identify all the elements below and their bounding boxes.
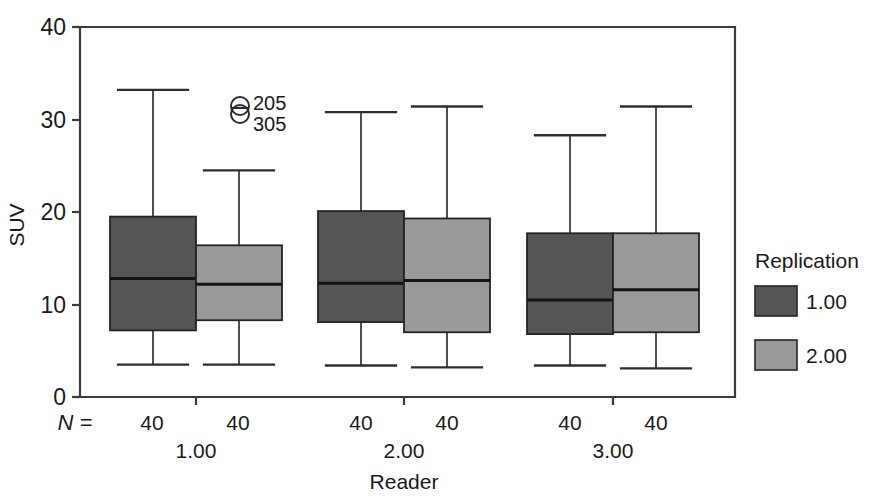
box-body[interactable] [318,211,404,322]
box-body[interactable] [613,233,699,332]
box-group-reader-2.00-rep-2.00 [404,107,490,368]
box-group-reader-3.00-rep-2.00 [613,107,699,369]
boxplot-figure: 40 30 20 10 0 SUV 205 305 [0,0,873,500]
legend: Replication 1.00 2.00 [755,249,859,370]
x-axis-title: Reader [370,470,439,493]
boxplot-canvas: 40 30 20 10 0 SUV 205 305 [0,0,873,500]
outlier-label-205: 205 [253,92,286,114]
y-tick-label-0: 0 [53,384,66,410]
outlier-annotation-group: 205 305 [231,92,286,135]
legend-title: Replication [755,249,859,272]
group-label-2: 2.00 [384,439,425,462]
group-label-1: 1.00 [176,439,217,462]
box-group-reader-2.00-rep-1.00 [318,112,404,365]
box-body[interactable] [404,218,490,332]
y-tick-label-20: 20 [40,199,66,225]
legend-label-replication-1: 1.00 [806,290,847,313]
legend-swatch-replication-1[interactable] [755,286,797,316]
count-label-g3-r2: 40 [644,411,667,434]
legend-label-replication-2: 2.00 [806,344,847,367]
box-group-reader-1.00-rep-1.00 [110,90,196,365]
x-axis-ticks [196,397,613,405]
plot-frame [80,27,735,397]
y-axis-tick-labels: 40 30 20 10 0 [40,14,66,410]
count-label-g1-r2: 40 [226,411,249,434]
y-tick-label-40: 40 [40,14,66,40]
y-axis-title: SUV [5,203,28,246]
legend-swatch-replication-2[interactable] [755,340,797,370]
box-group-reader-1.00-rep-2.00 [196,170,282,364]
count-label-g1-r1: 40 [140,411,163,434]
counts-prefix-label: N = [58,410,93,435]
y-tick-label-30: 30 [40,107,66,133]
box-body[interactable] [110,217,196,331]
group-label-3: 3.00 [593,439,634,462]
counts-row: N = 40 40 40 40 40 40 [58,410,668,435]
boxplot-series-layer [110,90,699,368]
count-label-g2-r2: 40 [435,411,458,434]
x-axis-group-labels: 1.00 2.00 3.00 [176,439,634,462]
y-tick-label-10: 10 [40,292,66,318]
y-axis-ticks [72,27,80,397]
count-label-g3-r1: 40 [558,411,581,434]
box-body[interactable] [527,233,613,334]
outlier-label-305: 305 [253,113,286,135]
count-label-g2-r1: 40 [349,411,372,434]
box-group-reader-3.00-rep-1.00 [527,135,613,365]
